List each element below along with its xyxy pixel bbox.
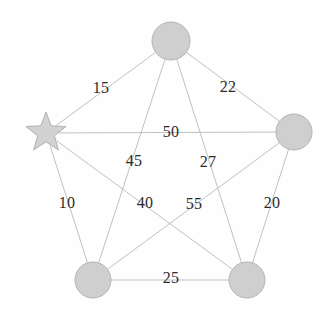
edge-weight-label: 15 bbox=[93, 80, 109, 96]
graph-node-circle[interactable] bbox=[75, 262, 111, 298]
edge-weight-label: 22 bbox=[220, 79, 236, 95]
edge-weight-label: 40 bbox=[137, 195, 153, 211]
edge-weight-label: 25 bbox=[163, 270, 179, 286]
edge-weight-label: 50 bbox=[163, 124, 179, 140]
edge-weight-label: 27 bbox=[200, 154, 216, 170]
nodes-layer bbox=[26, 22, 312, 298]
edges-layer bbox=[50, 52, 289, 280]
edge-weight-label: 55 bbox=[186, 196, 202, 212]
graph-node-circle[interactable] bbox=[229, 262, 265, 298]
graph-figure: 15225045271040552025 bbox=[0, 0, 324, 312]
graph-node-circle[interactable] bbox=[152, 22, 190, 60]
edge-weight-label: 20 bbox=[264, 195, 280, 211]
graph-canvas bbox=[0, 0, 324, 312]
edge-weight-label: 45 bbox=[126, 153, 142, 169]
graph-node-star[interactable] bbox=[26, 112, 66, 150]
edge-weight-label: 10 bbox=[59, 195, 75, 211]
graph-node-circle[interactable] bbox=[276, 114, 312, 150]
